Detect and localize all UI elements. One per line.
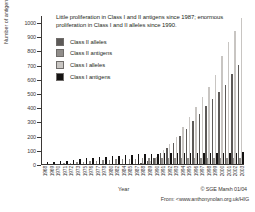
- y-tick: [37, 165, 41, 166]
- x-tick-label: 1969: [49, 166, 55, 176]
- bar: [238, 65, 239, 164]
- y-tick: [37, 122, 41, 123]
- y-tick: [37, 80, 41, 81]
- x-tick-label: 1973: [75, 166, 81, 176]
- bar: [89, 161, 90, 164]
- chart-root: Number of antigens/alleles 0100200300400…: [0, 0, 255, 212]
- bar: [83, 162, 84, 164]
- x-tick-label: 1968: [42, 166, 48, 176]
- legend-label: Class II antigens: [70, 50, 112, 56]
- bar: [212, 99, 213, 164]
- y-tick: [37, 94, 41, 95]
- legend-label: Class I alleles: [70, 62, 105, 68]
- credit-source-url: From: <www.anthonynolan.org.uk/HIG: [161, 196, 249, 202]
- x-tick-label: 1991: [160, 166, 166, 176]
- bar: [242, 152, 243, 164]
- y-tick-label: 0: [33, 162, 36, 168]
- bar: [70, 163, 71, 164]
- x-tick-label: 1997: [199, 166, 205, 176]
- legend-label: Class II alleles: [70, 39, 107, 45]
- x-tick-label: 1977: [95, 166, 101, 176]
- legend-item: Class II antigens: [56, 48, 112, 60]
- y-tick-label: 600: [27, 77, 36, 83]
- x-tick-label: 1988: [140, 166, 146, 176]
- x-tick-label: 2002: [232, 166, 238, 176]
- y-tick-label: 300: [27, 119, 36, 125]
- x-tick-label: 1971: [62, 166, 68, 176]
- x-tick-label: 1989: [147, 166, 153, 176]
- bar: [228, 42, 229, 164]
- bar: [221, 56, 222, 164]
- bar: [199, 114, 200, 164]
- bar: [63, 163, 64, 164]
- y-tick-label: 100: [27, 148, 36, 154]
- legend-item: Class II alleles: [56, 36, 112, 48]
- x-axis-title: Year: [118, 186, 129, 192]
- bar: [96, 161, 97, 164]
- legend-item: Class I alleles: [56, 59, 112, 71]
- x-tick-label: 1976: [88, 166, 94, 176]
- legend: Class II allelesClass II antigensClass I…: [56, 36, 112, 82]
- x-tick-label: 1996: [193, 166, 199, 176]
- y-tick: [37, 151, 41, 152]
- bar: [205, 106, 206, 164]
- y-tick-label: 500: [27, 91, 36, 97]
- bar: [129, 159, 130, 164]
- legend-swatch: [56, 61, 64, 69]
- x-tick-label: 2000: [219, 166, 225, 176]
- cut-off-header-text: [0, 0, 255, 7]
- legend-swatch: [56, 49, 64, 57]
- bar: [225, 85, 226, 164]
- y-tick-label: 900: [27, 34, 36, 40]
- y-tick: [37, 108, 41, 109]
- x-tick-label: 1993: [173, 166, 179, 176]
- legend-swatch: [56, 38, 64, 46]
- bar: [109, 160, 110, 164]
- x-tick-label: 1972: [68, 166, 74, 176]
- credit-copyright: © SGE Marsh 01/04: [200, 186, 247, 192]
- x-tick-label: 1980: [108, 166, 114, 176]
- bar-group: [237, 16, 244, 164]
- chart-title: Little proliferation in Class I and II a…: [56, 13, 242, 29]
- bar: [115, 159, 116, 164]
- x-tick-label: 2001: [226, 166, 232, 176]
- bar: [231, 74, 232, 164]
- bar: [234, 31, 235, 164]
- bar: [102, 160, 103, 164]
- x-tick-label: 1982: [114, 166, 120, 176]
- y-tick: [37, 37, 41, 38]
- x-tick-label: 1985: [127, 166, 133, 176]
- y-tick-label: 200: [27, 134, 36, 140]
- x-tick-label: 1992: [167, 166, 173, 176]
- x-tick-label: 1984: [121, 166, 127, 176]
- x-tick-label: 1975: [82, 166, 88, 176]
- x-tick-label: 1995: [186, 166, 192, 176]
- y-tick: [37, 51, 41, 52]
- bar: [241, 18, 242, 164]
- x-tick-label: 1970: [55, 166, 61, 176]
- bar: [76, 162, 77, 164]
- legend-swatch: [56, 73, 64, 81]
- bar: [215, 75, 216, 164]
- legend-label: Class I antigens: [70, 74, 110, 80]
- x-tick-label: 1999: [212, 166, 218, 176]
- x-tick-label: 1990: [154, 166, 160, 176]
- y-axis-title: Number of antigens/alleles: [3, 0, 9, 44]
- x-axis-line: [41, 164, 244, 165]
- bar: [135, 159, 136, 164]
- x-tick-label: 2003: [239, 166, 245, 176]
- y-tick: [37, 137, 41, 138]
- bar: [122, 159, 123, 164]
- x-tick-label: 1994: [180, 166, 186, 176]
- y-tick-label: 800: [27, 48, 36, 54]
- x-tick-label: 1978: [101, 166, 107, 176]
- y-tick: [37, 23, 41, 24]
- y-tick-label: 1000: [24, 20, 36, 26]
- y-tick: [37, 66, 41, 67]
- legend-item: Class I antigens: [56, 71, 112, 83]
- y-tick-label: 400: [27, 105, 36, 111]
- y-tick-label: 700: [27, 63, 36, 69]
- bar: [218, 92, 219, 164]
